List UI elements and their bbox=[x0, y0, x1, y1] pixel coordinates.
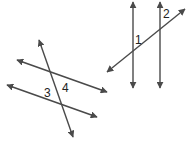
angle-2-label: 2 bbox=[163, 7, 170, 21]
right-transversal bbox=[107, 9, 185, 72]
right-figure: 1 2 bbox=[107, 2, 185, 88]
angle-4-label: 4 bbox=[62, 81, 69, 95]
slanted-parallel-line-2 bbox=[7, 85, 97, 117]
left-figure: 3 4 bbox=[7, 40, 107, 137]
parallel-lines-diagram: 1 2 3 4 bbox=[0, 0, 187, 147]
angle-1-label: 1 bbox=[135, 33, 142, 47]
angle-3-label: 3 bbox=[44, 86, 51, 100]
